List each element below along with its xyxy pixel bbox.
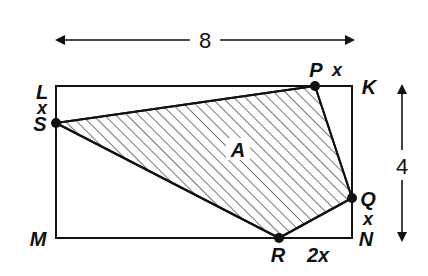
point-p-dot	[310, 81, 320, 91]
height-dimension: 4	[396, 86, 408, 240]
segment-label-rn: 2x	[306, 244, 330, 266]
point-q-dot	[347, 193, 357, 203]
point-label-r: R	[271, 244, 286, 266]
corner-label-k: K	[362, 76, 378, 98]
segment-label-pk: x	[331, 60, 343, 80]
point-label-p: P	[309, 59, 323, 81]
shaded-region-a	[56, 86, 352, 238]
width-label: 8	[199, 28, 211, 53]
point-r-dot	[274, 233, 284, 243]
corner-label-n: N	[359, 228, 374, 250]
region-label: A	[230, 139, 245, 161]
point-s-dot	[51, 118, 61, 128]
region-label-group: A	[226, 138, 250, 161]
corner-label-m: M	[30, 228, 48, 250]
point-label-q: Q	[360, 188, 376, 210]
segment-label-ls: x	[36, 98, 48, 118]
segment-label-qn: x	[362, 209, 374, 229]
height-label: 4	[396, 154, 408, 179]
geometry-diagram: 8 4 A L K M N P S Q R x x x 2x	[0, 0, 428, 276]
width-dimension: 8	[57, 28, 353, 53]
